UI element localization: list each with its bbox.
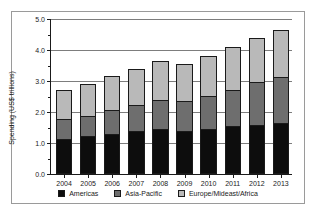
bar-segment[interactable]: [201, 97, 215, 131]
bar-segment[interactable]: [177, 102, 191, 132]
y-tick: [47, 81, 51, 82]
x-tick: [257, 174, 258, 178]
bar-segment[interactable]: [201, 130, 215, 173]
x-tick-label: 2009: [177, 180, 193, 187]
bar-segment[interactable]: [129, 106, 143, 132]
bar-segment[interactable]: [57, 91, 71, 120]
x-tick-label: 2006: [104, 180, 120, 187]
x-tick-label: 2005: [80, 180, 96, 187]
bar-segment[interactable]: [250, 83, 264, 126]
bar-segment[interactable]: [177, 132, 191, 173]
y-tick-label: 0.0: [35, 171, 45, 178]
legend-label: Europe/Mideast/Africa: [189, 190, 258, 197]
bar-segment[interactable]: [153, 62, 167, 102]
y-tick: [47, 174, 51, 175]
y-tick: [47, 112, 51, 113]
x-tick: [112, 174, 113, 178]
y-tick-minor: [48, 66, 51, 67]
bar-segment[interactable]: [226, 48, 240, 91]
bar-segment[interactable]: [226, 91, 240, 128]
bar-segment[interactable]: [274, 78, 288, 124]
y-tick: [47, 143, 51, 144]
bar-segment[interactable]: [153, 130, 167, 173]
x-tick: [88, 174, 89, 178]
x-tick: [64, 174, 65, 178]
x-tick-label: 2011: [225, 180, 240, 187]
legend-item[interactable]: Europe/Mideast/Africa: [178, 190, 258, 197]
x-tick: [185, 174, 186, 178]
bar-group-2011: 2011: [221, 19, 245, 174]
bar-segment[interactable]: [177, 65, 191, 102]
y-tick: [47, 19, 51, 20]
bar-segment[interactable]: [57, 120, 71, 140]
bar-segment[interactable]: [250, 39, 264, 83]
legend-item[interactable]: Asia-Pacific: [114, 190, 162, 197]
plot-area: 0.01.02.03.04.05.0 200420052006200720082…: [50, 19, 292, 175]
stacked-bar[interactable]: [225, 47, 241, 174]
bar-group-2007: 2007: [124, 19, 148, 174]
y-tick-minor: [48, 159, 51, 160]
stacked-bar[interactable]: [56, 90, 72, 174]
bar-group-2004: 2004: [52, 19, 76, 174]
bar-segment[interactable]: [81, 117, 95, 137]
y-tick-label: 2.0: [35, 109, 45, 116]
legend-label: Asia-Pacific: [125, 190, 162, 197]
y-tick-minor: [48, 128, 51, 129]
y-tick-label: 1.0: [35, 140, 45, 147]
bar-group-2006: 2006: [100, 19, 124, 174]
bar-segment[interactable]: [153, 101, 167, 130]
bar-segment[interactable]: [274, 124, 288, 173]
x-tick-label: 2010: [201, 180, 217, 187]
y-tick-label: 3.0: [35, 78, 45, 85]
stacked-bar[interactable]: [273, 30, 289, 174]
stacked-bar[interactable]: [152, 61, 168, 174]
stacked-bar[interactable]: [200, 56, 216, 174]
bar-segment[interactable]: [57, 140, 71, 173]
bar-segment[interactable]: [105, 135, 119, 173]
chart-legend: AmericasAsia-PacificEurope/Mideast/Afric…: [12, 190, 304, 197]
y-tick-label: 4.0: [35, 47, 45, 54]
bar-series-group: 2004200520062007200820092010201120122013: [52, 19, 293, 174]
bar-segment[interactable]: [129, 132, 143, 173]
legend-swatch-icon: [58, 190, 65, 197]
bar-group-2013: 2013: [269, 19, 293, 174]
stacked-bar[interactable]: [176, 64, 192, 174]
stacked-bar[interactable]: [249, 38, 265, 174]
bar-segment[interactable]: [105, 111, 119, 135]
x-tick: [160, 174, 161, 178]
y-tick-label: 5.0: [35, 16, 45, 23]
bar-segment[interactable]: [129, 70, 143, 106]
stacked-bar[interactable]: [128, 69, 144, 174]
bar-segment[interactable]: [105, 77, 119, 110]
bar-group-2008: 2008: [148, 19, 172, 174]
legend-item[interactable]: Americas: [58, 190, 98, 197]
x-tick-label: 2012: [249, 180, 265, 187]
x-tick-label: 2013: [273, 180, 289, 187]
stacked-bar[interactable]: [80, 84, 96, 174]
bar-group-2010: 2010: [197, 19, 221, 174]
chart-figure: Spending (US$ trillions) 0.01.02.03.04.0…: [11, 11, 305, 204]
x-tick: [136, 174, 137, 178]
bar-group-2009: 2009: [172, 19, 196, 174]
bar-group-2005: 2005: [76, 19, 100, 174]
legend-swatch-icon: [114, 190, 121, 197]
x-tick-label: 2004: [56, 180, 72, 187]
x-tick: [209, 174, 210, 178]
bar-segment[interactable]: [250, 126, 264, 173]
legend-label: Americas: [69, 190, 98, 197]
bar-group-2012: 2012: [245, 19, 269, 174]
bar-segment[interactable]: [81, 85, 95, 117]
bar-segment[interactable]: [201, 57, 215, 97]
x-tick-label: 2008: [153, 180, 169, 187]
bar-segment[interactable]: [274, 31, 288, 78]
bar-segment[interactable]: [81, 137, 95, 173]
y-axis-label: Spending (US$ trillions): [8, 71, 15, 145]
stacked-bar[interactable]: [104, 76, 120, 174]
y-tick: [47, 50, 51, 51]
legend-swatch-icon: [178, 190, 185, 197]
x-tick-label: 2007: [129, 180, 145, 187]
bar-segment[interactable]: [226, 127, 240, 173]
x-tick: [233, 174, 234, 178]
x-tick: [281, 174, 282, 178]
y-tick-minor: [48, 97, 51, 98]
